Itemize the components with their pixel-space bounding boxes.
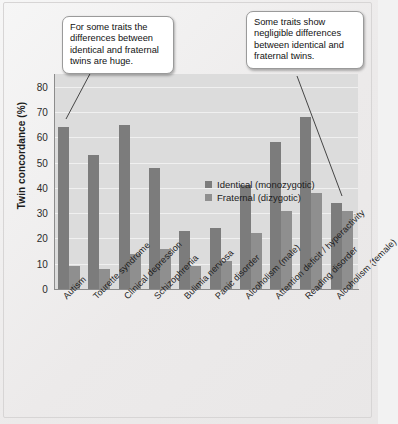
x-axis-line bbox=[54, 289, 359, 290]
y-tick-label: 40 bbox=[22, 182, 48, 193]
bar bbox=[88, 155, 99, 289]
bar-group bbox=[331, 74, 357, 289]
bar-group bbox=[119, 74, 145, 289]
bar bbox=[270, 142, 281, 289]
bar bbox=[99, 269, 110, 289]
bar bbox=[190, 266, 201, 289]
bar bbox=[281, 211, 292, 289]
y-tick-label: 10 bbox=[22, 258, 48, 269]
callout-right: Some traits show negligible differences … bbox=[246, 11, 364, 69]
y-tick-label: 50 bbox=[22, 157, 48, 168]
legend-swatch-icon bbox=[205, 181, 212, 188]
bar bbox=[221, 261, 232, 289]
bar-group bbox=[58, 74, 84, 289]
callout-left: For some traits the differences between … bbox=[62, 16, 174, 74]
y-tick-label: 0 bbox=[22, 284, 48, 295]
bar bbox=[119, 125, 130, 289]
legend-label-identical: Identical (monozygotic) bbox=[217, 178, 315, 191]
bar bbox=[251, 233, 262, 289]
bar bbox=[331, 203, 342, 289]
y-tick-label: 70 bbox=[22, 106, 48, 117]
bar bbox=[179, 231, 190, 289]
y-tick-label: 60 bbox=[22, 132, 48, 143]
bar bbox=[311, 193, 322, 289]
bar bbox=[149, 168, 160, 289]
legend-item-fraternal: Fraternal (dizygotic) bbox=[205, 191, 315, 204]
legend-label-fraternal: Fraternal (dizygotic) bbox=[217, 191, 301, 204]
bar bbox=[210, 228, 221, 289]
bar-group bbox=[179, 74, 205, 289]
plot-area: Identical (monozygotic) Fraternal (dizyg… bbox=[55, 74, 358, 289]
bar bbox=[342, 211, 353, 289]
y-tick-label: 30 bbox=[22, 208, 48, 219]
legend-swatch-icon bbox=[205, 194, 212, 201]
bar bbox=[160, 249, 171, 289]
y-axis-tick-labels: 01020304050607080 bbox=[18, 0, 48, 424]
bar-group bbox=[149, 74, 175, 289]
y-tick-label: 80 bbox=[22, 81, 48, 92]
y-tick-label: 20 bbox=[22, 233, 48, 244]
bar bbox=[130, 254, 141, 289]
bar bbox=[69, 266, 80, 289]
bar-group bbox=[88, 74, 114, 289]
chart-legend: Identical (monozygotic) Fraternal (dizyg… bbox=[205, 178, 315, 204]
legend-item-identical: Identical (monozygotic) bbox=[205, 178, 315, 191]
bar bbox=[58, 127, 69, 289]
